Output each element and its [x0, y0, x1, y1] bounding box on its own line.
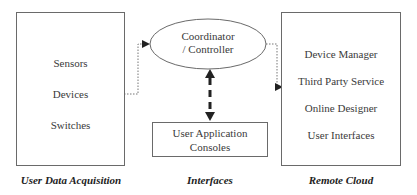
console-label-line1: User Application	[153, 126, 267, 140]
remote-cloud-box: Device Manager Third Party Service Onlin…	[281, 12, 401, 166]
acquisition-item-devices: Devices	[17, 88, 124, 100]
coordinator-label: Coordinator / Controller	[150, 30, 266, 56]
coordinator-label-line2: / Controller	[150, 43, 266, 56]
interfaces-caption: Interfaces	[150, 174, 270, 186]
coordinator-console-double-arrow	[205, 69, 215, 121]
user-application-consoles-box: User Application Consoles	[152, 122, 268, 157]
coordinator-to-cloud-connector	[266, 44, 282, 87]
console-label-line2: Consoles	[153, 140, 267, 154]
cloud-item-device-manager: Device Manager	[282, 48, 400, 60]
cloud-item-online-designer: Online Designer	[282, 102, 400, 114]
acquisition-to-coordinator-connector	[124, 44, 149, 94]
cloud-item-user-interfaces: User Interfaces	[282, 129, 400, 141]
acquisition-item-switches: Switches	[17, 119, 124, 131]
console-label: User Application Consoles	[153, 126, 267, 154]
acquisition-item-sensors: Sensors	[17, 57, 124, 69]
cloud-item-third-party-service: Third Party Service	[282, 75, 400, 87]
user-data-acquisition-caption: User Data Acquisition	[10, 174, 132, 186]
coordinator-label-line1: Coordinator	[150, 30, 266, 43]
remote-cloud-caption: Remote Cloud	[281, 174, 401, 186]
user-data-acquisition-box: Sensors Devices Switches	[16, 12, 125, 166]
